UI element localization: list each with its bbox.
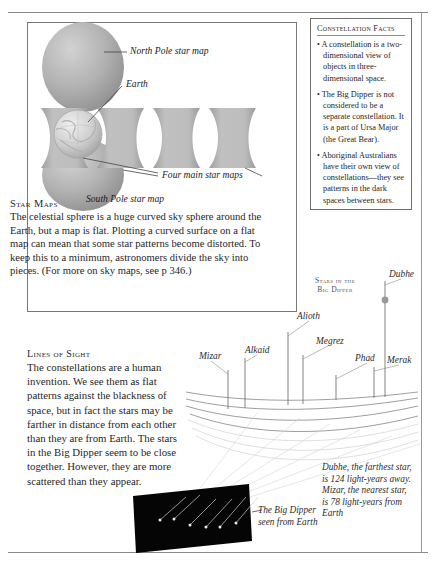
bottom-rule [8,552,428,553]
star-leader-alkaid [245,355,257,362]
star-leader-megrez [303,346,328,359]
star-maps-heading: Star Maps [10,198,262,209]
star-label-mizar: Mizar [199,351,221,361]
star-label-alioth: Alioth [297,311,320,321]
caption-star-distances: Dubhe, the farthest star, is 124 light-y… [322,462,414,520]
star-label-dubhe: Dubhe [389,269,414,279]
star-label-megrez: Megrez [316,336,344,346]
star-label-merak: Merak [387,355,411,365]
fact-item: • A constellation is a two-dimensional v… [317,39,405,84]
star-leader-phad [336,363,367,379]
big-dipper-heading: Stars in the Big Dipper [292,276,378,294]
star-dot-dubhe [382,297,389,304]
star-leader-dubhe [385,279,401,285]
fact-item: • The Big Dipper is not considered to be… [317,89,405,145]
lines-of-sight-text-block: Lines of Sight The constellations are a … [27,348,182,488]
page-canvas: North Pole star map Earth Four main star… [0,0,438,563]
bullet-icon: • [317,40,320,49]
label-four-main-star-maps: Four main star maps [162,169,243,180]
label-earth: Earth [126,78,148,89]
lines-of-sight-body: The constellations are a human invention… [27,360,182,488]
label-north-pole-star-map: North Pole star map [130,45,209,56]
big-dipper-heading-line1: Stars in the [292,276,378,285]
star-maps-body: The celestial sphere is a huge curved sk… [10,210,262,278]
fact-text: A constellation is a two-dimensional vie… [321,40,402,83]
lines-of-sight-heading: Lines of Sight [27,348,182,359]
bullet-icon: • [317,90,320,99]
big-dipper-heading-line2: Big Dipper [292,285,378,294]
top-rule [8,12,428,13]
constellation-facts-panel: Constellation Facts • A constellation is… [310,18,412,210]
star-maps-text-block: Star Maps The celestial sphere is a huge… [10,198,262,278]
star-label-phad: Phad [355,353,375,363]
fact-item: • Aboriginal Australians have their own … [317,150,405,206]
bullet-icon: • [317,151,320,160]
right-margin-rule [421,12,422,553]
constellation-facts-title: Constellation Facts [317,24,405,36]
caption-big-dipper-seen-from-earth: The Big Dipper seen from Earth [258,505,318,528]
fact-text: Aboriginal Australians have their own vi… [321,151,403,205]
star-leader-merak [374,365,399,371]
star-leader-alioth [288,321,309,336]
star-leader-mizar [211,361,228,374]
fact-text: The Big Dipper is not considered to be a… [322,90,404,144]
star-label-alkaid: Alkaid [245,345,269,355]
